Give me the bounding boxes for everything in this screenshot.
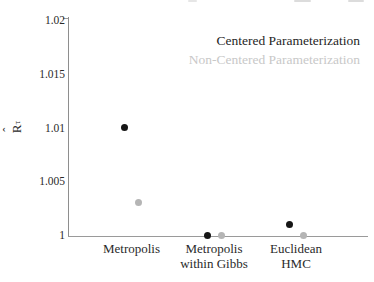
data-point (300, 232, 307, 239)
cropped-text-artifact (294, 0, 311, 2)
data-point (121, 124, 128, 131)
y-axis-label-base: ˆR (9, 124, 25, 133)
x-category-label: EuclideanHMC (236, 241, 356, 271)
y-axis-label: ˆRτ (3, 113, 31, 141)
data-point (204, 232, 211, 239)
legend: Centered ParameterizationNon-Centered Pa… (189, 31, 360, 69)
figure: Centered ParameterizationNon-Centered Pa… (0, 0, 374, 282)
legend-entry: Centered Parameterization (189, 31, 360, 50)
data-point (218, 232, 225, 239)
y-axis (68, 17, 69, 236)
y-tick-label: 1 (59, 228, 65, 242)
y-tick-label: 1.005 (39, 174, 65, 188)
cropped-text-artifact (348, 0, 364, 2)
y-tick-label: 1.015 (39, 67, 65, 81)
data-point (135, 199, 142, 206)
data-point (286, 221, 293, 228)
y-tick-label: 1.02 (45, 13, 65, 27)
cropped-text-artifact (188, 0, 197, 2)
y-tick-label: 1.01 (45, 121, 65, 135)
legend-entry: Non-Centered Parameterization (189, 50, 360, 69)
y-axis-label-hat: ˆ (1, 128, 16, 132)
